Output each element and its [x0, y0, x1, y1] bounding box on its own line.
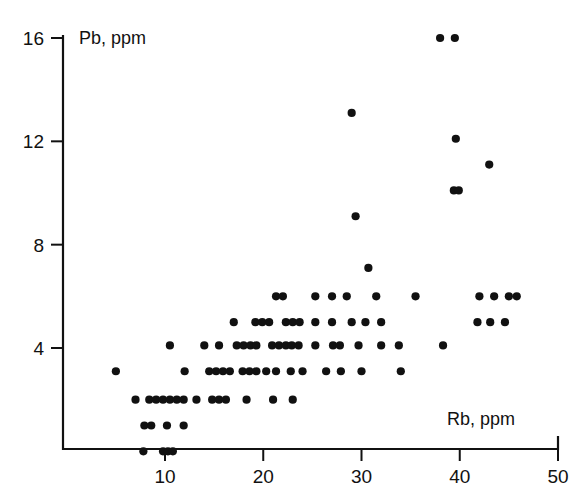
data-point — [411, 292, 419, 300]
data-point — [348, 318, 356, 326]
data-point — [230, 318, 238, 326]
data-point — [139, 447, 147, 455]
data-point — [377, 341, 385, 349]
x-tick-labels: 1020304050 — [154, 466, 568, 487]
data-point — [222, 396, 230, 404]
data-point — [455, 186, 463, 194]
data-point — [337, 367, 345, 375]
y-tick-label: 4 — [33, 338, 44, 359]
data-point — [343, 292, 351, 300]
data-point — [311, 318, 319, 326]
x-tick-label: 50 — [547, 466, 568, 487]
page-caption — [0, 489, 585, 503]
data-point — [262, 367, 270, 375]
axis-lines — [63, 36, 558, 449]
data-point — [147, 421, 155, 429]
data-point — [328, 292, 336, 300]
data-point — [452, 135, 460, 143]
data-point — [501, 318, 509, 326]
data-point — [328, 318, 336, 326]
x-tick-label: 10 — [154, 466, 175, 487]
data-point — [354, 341, 362, 349]
data-point — [361, 318, 369, 326]
data-points-group — [112, 34, 521, 456]
data-point — [436, 34, 444, 42]
data-point — [166, 341, 174, 349]
data-point — [486, 318, 494, 326]
data-point — [131, 396, 139, 404]
data-point — [352, 212, 360, 220]
data-point — [289, 396, 297, 404]
data-point — [505, 292, 513, 300]
x-tick-label: 30 — [351, 466, 372, 487]
data-point — [348, 109, 356, 117]
x-tick-label: 20 — [253, 466, 274, 487]
data-point — [163, 421, 171, 429]
data-point — [200, 341, 208, 349]
data-point — [485, 160, 493, 168]
x-axis-title: Rb, ppm — [447, 409, 515, 429]
data-point — [395, 341, 403, 349]
data-point — [226, 367, 234, 375]
data-point — [364, 264, 372, 272]
data-point — [279, 292, 287, 300]
data-point — [287, 367, 295, 375]
y-axis-title: Pb, ppm — [79, 28, 146, 48]
data-point — [272, 367, 280, 375]
data-point — [180, 396, 188, 404]
data-point — [377, 318, 385, 326]
data-point — [357, 367, 365, 375]
data-point — [490, 292, 498, 300]
scatter-plot-figure: 481216 1020304050 Pb, ppm Rb, ppm — [0, 0, 585, 503]
data-point — [311, 341, 319, 349]
y-tick-label: 16 — [23, 28, 44, 49]
data-point — [252, 341, 260, 349]
y-tick-labels: 481216 — [23, 28, 45, 359]
y-tick-marks — [51, 38, 63, 348]
data-point — [336, 341, 344, 349]
data-point — [439, 341, 447, 349]
data-point — [298, 367, 306, 375]
data-point — [269, 396, 277, 404]
y-tick-label: 12 — [23, 131, 44, 152]
x-tick-label: 40 — [449, 466, 470, 487]
data-point — [311, 292, 319, 300]
plot-canvas: 481216 1020304050 Pb, ppm Rb, ppm — [0, 0, 585, 503]
data-point — [513, 292, 521, 300]
data-point — [181, 367, 189, 375]
data-point — [296, 318, 304, 326]
data-point — [475, 292, 483, 300]
y-tick-label: 8 — [33, 235, 44, 256]
data-point — [192, 396, 200, 404]
data-point — [295, 341, 303, 349]
data-point — [451, 34, 459, 42]
x-tick-marks — [165, 449, 558, 461]
data-point — [169, 447, 177, 455]
data-point — [265, 318, 273, 326]
data-point — [242, 396, 250, 404]
data-point — [473, 318, 481, 326]
data-point — [372, 292, 380, 300]
data-point — [252, 367, 260, 375]
data-point — [112, 367, 120, 375]
data-point — [322, 367, 330, 375]
data-point — [215, 341, 223, 349]
data-point — [397, 367, 405, 375]
data-point — [180, 421, 188, 429]
